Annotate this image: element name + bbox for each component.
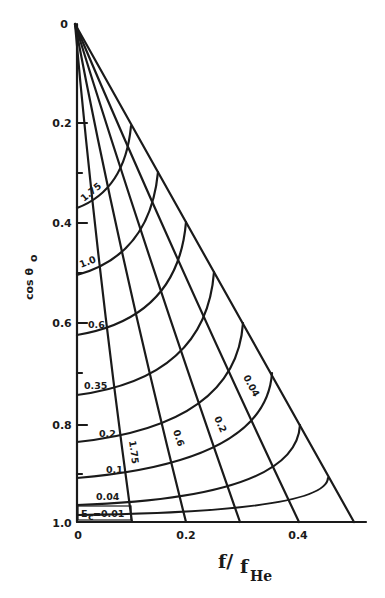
y-tick-label: 0.4 [52, 217, 72, 230]
energy-label-1.0: 1.0 [78, 253, 98, 270]
x-axis-title-main: f/ [218, 550, 233, 572]
y-axis-title: cos θ o [23, 254, 40, 300]
energy-label-0.1: 0.1 [106, 464, 123, 475]
x-tick-label: 0.4 [288, 529, 308, 542]
x-tick-label: 0 [74, 529, 82, 542]
chart: 0 0.2 0.4 0.6 0.8 1.0 0 0.2 0.4 f/ f He … [0, 0, 385, 598]
radial-label-0.2: 0.2 [212, 414, 229, 434]
y-tick-label: 0.2 [52, 117, 72, 130]
y-axis-title-sub: o [27, 254, 40, 262]
energy-curve-0.35 [77, 272, 214, 395]
radial-curve-labels: 1.75 0.6 0.2 0.04 [127, 373, 262, 465]
energy-curves [77, 126, 328, 515]
ec-suffix: =0.01 [93, 508, 124, 519]
radial-label-0.6: 0.6 [171, 428, 187, 448]
radial-curves [75, 24, 299, 522]
y-tick-label: 1.0 [52, 517, 72, 530]
x-axis-title: f/ f He [218, 550, 272, 584]
energy-label-0.6: 0.6 [88, 319, 105, 330]
axes [77, 24, 366, 522]
y-tick-label: 0.6 [52, 317, 72, 330]
x-axis-title-f: f [240, 555, 250, 577]
x-tick-label: 0.2 [176, 529, 196, 542]
y-tick-labels: 0 0.2 0.4 0.6 0.8 1.0 [52, 18, 72, 530]
y-tick-label: 0.8 [52, 419, 72, 432]
energy-label-0.2: 0.2 [99, 428, 116, 439]
energy-label-0.35: 0.35 [84, 380, 107, 391]
radial-curve-0.04 [75, 24, 299, 522]
y-tick-label: 0 [60, 18, 68, 31]
y-axis-title-main: cos θ [23, 268, 36, 300]
radial-label-0.04: 0.04 [241, 373, 262, 399]
x-axis-title-sub: He [250, 568, 272, 584]
radial-label-1.75: 1.75 [127, 440, 141, 465]
x-tick-labels: 0 0.2 0.4 [74, 529, 308, 542]
ec-prefix: E [81, 508, 88, 519]
energy-label-0.04: 0.04 [96, 491, 120, 502]
energy-curve-labels: 1.75 1.0 0.6 0.35 0.2 0.1 0.04 E c =0.01 [78, 180, 131, 522]
energy-label-1.75: 1.75 [78, 180, 103, 204]
